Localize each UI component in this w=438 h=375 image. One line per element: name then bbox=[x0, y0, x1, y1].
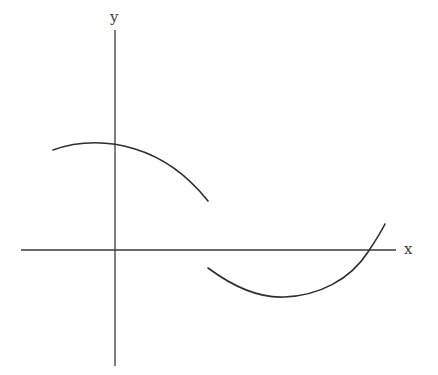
y-axis-label: y bbox=[109, 8, 119, 26]
right-curve-piece bbox=[208, 224, 385, 297]
graph-svg: x y bbox=[0, 0, 438, 375]
left-curve-piece bbox=[53, 143, 208, 201]
x-axis-label: x bbox=[404, 240, 413, 258]
function-graph-diagram: x y bbox=[0, 0, 438, 375]
